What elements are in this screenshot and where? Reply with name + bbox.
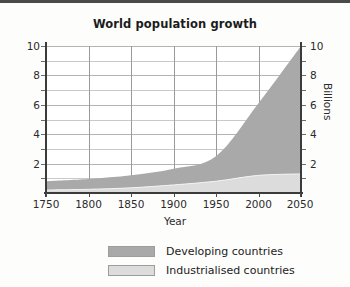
ytick-right-4	[302, 134, 306, 135]
ytick-left-10	[41, 46, 45, 47]
chart-title: World population growth	[0, 17, 350, 31]
ytick-right-5	[302, 120, 306, 121]
plot-area	[46, 46, 301, 193]
ytick-label-left-10: 10	[18, 41, 40, 52]
area-developing-countries	[46, 46, 301, 190]
series-container	[46, 46, 301, 193]
xtick-label-1950: 1950	[196, 199, 236, 210]
xtick-1900	[174, 193, 175, 197]
ytick-left-3	[41, 149, 45, 150]
legend-label-industrialised: Industrialised countries	[166, 264, 295, 277]
xtick-2050	[300, 193, 301, 197]
ytick-label-right-2: 2	[310, 159, 332, 170]
chart-figure: World population growth	[0, 0, 350, 287]
legend-item-industrialised: Industrialised countries	[108, 262, 295, 278]
ytick-left-6	[41, 105, 45, 106]
ytick-label-left-8: 8	[18, 70, 40, 81]
legend-swatch-industrialised	[108, 265, 155, 276]
ytick-left-9	[41, 61, 45, 62]
ytick-left-5	[41, 120, 45, 121]
ytick-left-1	[41, 178, 45, 179]
ytick-right-6	[302, 105, 306, 106]
legend-item-developing: Developing countries	[108, 243, 295, 259]
ytick-label-right-10: 10	[310, 41, 332, 52]
ytick-right-9	[302, 61, 306, 62]
ytick-right-2	[302, 164, 306, 165]
xtick-label-1850: 1850	[111, 199, 151, 210]
xtick-1850	[131, 193, 132, 197]
ytick-right-3	[302, 149, 306, 150]
y-axis-left	[45, 42, 47, 197]
ytick-label-left-4: 4	[18, 129, 40, 140]
legend-swatch-developing	[108, 246, 155, 257]
ytick-right-8	[302, 75, 306, 76]
ytick-label-left-6: 6	[18, 100, 40, 111]
ytick-label-right-8: 8	[310, 70, 332, 81]
x-axis-title: Year	[0, 215, 350, 227]
xtick-2000	[259, 193, 260, 197]
ytick-left-7	[41, 90, 45, 91]
ytick-left-4	[41, 134, 45, 135]
xtick-1800	[89, 193, 90, 197]
y-axis-title-right: Billions	[322, 83, 334, 120]
xtick-1750	[46, 193, 47, 197]
ytick-label-left-2: 2	[18, 159, 40, 170]
ytick-label-right-4: 4	[310, 129, 332, 140]
ytick-right-7	[302, 90, 306, 91]
xtick-label-1800: 1800	[69, 199, 109, 210]
xtick-1950	[216, 193, 217, 197]
ytick-right-1	[302, 178, 306, 179]
xtick-label-2000: 2000	[239, 199, 279, 210]
ytick-right-10	[302, 46, 306, 47]
xtick-label-1750: 1750	[26, 199, 66, 210]
chart-legend: Developing countries Industrialised coun…	[108, 243, 295, 281]
xtick-label-1900: 1900	[154, 199, 194, 210]
ytick-left-8	[41, 75, 45, 76]
ytick-left-2	[41, 164, 45, 165]
xtick-label-2050: 2050	[280, 199, 320, 210]
legend-label-developing: Developing countries	[166, 245, 283, 258]
